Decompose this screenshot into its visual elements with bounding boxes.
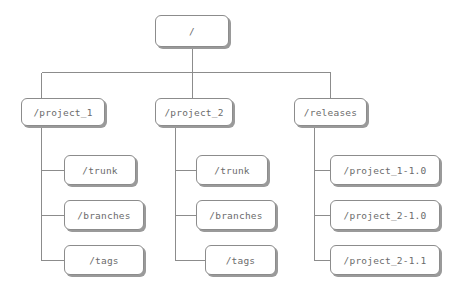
- node-releases[interactable]: /releases: [294, 98, 367, 126]
- node-root[interactable]: /: [155, 15, 229, 47]
- diagram-canvas: / /project_1 /project_2 /releases /trunk…: [0, 0, 461, 294]
- node-project-1-branches[interactable]: /branches: [64, 200, 144, 230]
- node-release-project-1-1-0[interactable]: /project_1-1.0: [330, 155, 440, 185]
- node-project-2-trunk[interactable]: /trunk: [196, 155, 268, 185]
- node-project-2-branches[interactable]: /branches: [196, 200, 276, 230]
- node-project-2[interactable]: /project_2: [155, 98, 233, 126]
- node-project-1-trunk[interactable]: /trunk: [64, 155, 136, 185]
- node-project-1[interactable]: /project_1: [21, 98, 105, 126]
- node-project-1-tags[interactable]: /tags: [64, 245, 144, 275]
- node-project-2-tags[interactable]: /tags: [205, 245, 276, 275]
- node-release-project-2-1-1[interactable]: /project_2-1.1: [330, 245, 440, 275]
- node-release-project-2-1-0[interactable]: /project_2-1.0: [330, 200, 440, 230]
